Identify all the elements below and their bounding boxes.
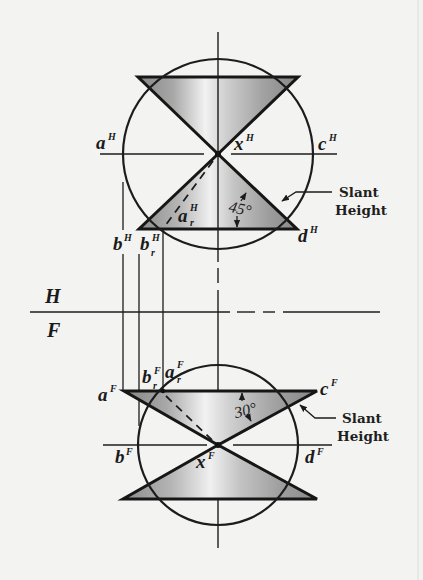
label-base: c bbox=[318, 133, 327, 154]
label-subscript: r bbox=[151, 247, 155, 258]
label-base: b bbox=[142, 366, 152, 387]
label-base: d bbox=[305, 446, 315, 467]
label-bH: b H bbox=[113, 232, 133, 254]
label-xH: x H bbox=[233, 132, 255, 154]
label-base: a bbox=[98, 384, 108, 405]
label-superscript: H bbox=[151, 232, 161, 243]
label-superscript: H bbox=[309, 224, 319, 235]
label-base: c bbox=[320, 378, 329, 399]
slant-height-leader-front bbox=[300, 405, 336, 418]
slant-height-callout-front-line2: Height bbox=[337, 428, 390, 444]
label-superscript: H bbox=[189, 202, 199, 213]
label-subscript: r bbox=[190, 217, 194, 228]
label-superscript: F bbox=[207, 450, 215, 461]
label-superscript: F bbox=[330, 377, 338, 388]
label-arF: a F r bbox=[165, 359, 184, 385]
label-cF: c F bbox=[320, 377, 338, 399]
plane-label-frontal: F bbox=[46, 319, 61, 341]
plane-label-horizontal: H bbox=[44, 285, 62, 307]
label-superscript: F bbox=[125, 446, 133, 457]
label-base: b bbox=[115, 446, 125, 467]
reference-line-hf: H F bbox=[30, 285, 380, 341]
label-brH: b H r bbox=[140, 232, 161, 258]
front-view: 30° Slant Height a F b F r a F r c F b F… bbox=[98, 359, 390, 525]
label-superscript: H bbox=[328, 132, 338, 143]
label-dH: d H bbox=[298, 224, 319, 246]
label-base: x bbox=[233, 133, 244, 154]
label-base: a bbox=[178, 205, 188, 226]
label-superscript: H bbox=[107, 131, 117, 142]
label-brF: b F r bbox=[142, 365, 161, 391]
label-dF: d F bbox=[305, 446, 324, 467]
label-base: x bbox=[195, 451, 206, 472]
cone-projection-diagram: 45° Slant Height a H x H c H b H b H r a… bbox=[0, 0, 423, 580]
label-subscript: r bbox=[177, 374, 181, 385]
label-superscript: F bbox=[176, 359, 184, 370]
label-base: d bbox=[298, 225, 308, 246]
front-view-rotated-point bbox=[161, 389, 165, 393]
label-superscript: H bbox=[245, 132, 255, 143]
slant-height-callout-front-line1: Slant bbox=[342, 410, 382, 426]
label-base: b bbox=[140, 233, 150, 254]
diagram-page: 45° Slant Height a H x H c H b H b H r a… bbox=[0, 0, 423, 580]
label-superscript: F bbox=[316, 446, 324, 457]
slant-height-callout-top-line1: Slant bbox=[339, 184, 379, 200]
label-superscript: F bbox=[153, 365, 161, 376]
label-base: a bbox=[96, 132, 106, 153]
label-cH: c H bbox=[318, 132, 338, 154]
slant-height-callout-top-line2: Height bbox=[335, 202, 388, 218]
label-aF: a F bbox=[98, 383, 117, 405]
label-base: b bbox=[113, 233, 123, 254]
label-bF: b F bbox=[115, 446, 133, 467]
label-aH: a H bbox=[96, 131, 117, 153]
top-view: 45° Slant Height a H x H c H b H b H r a… bbox=[96, 59, 388, 258]
front-view-apex-point bbox=[215, 442, 221, 448]
label-superscript: H bbox=[123, 232, 133, 243]
label-superscript: F bbox=[109, 383, 117, 394]
label-subscript: r bbox=[153, 380, 157, 391]
label-base: a bbox=[165, 361, 175, 382]
slant-height-leader-top bbox=[282, 192, 332, 201]
